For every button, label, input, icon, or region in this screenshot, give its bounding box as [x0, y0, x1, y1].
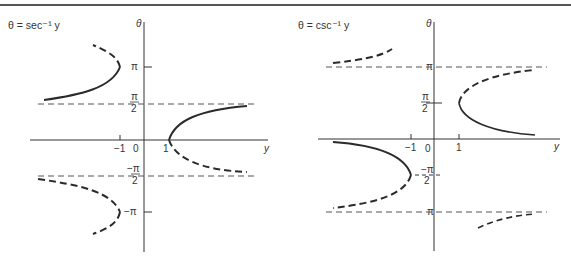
tick-label-pi: π [131, 61, 138, 72]
tick-label-neg-pi-half-num: −π [127, 163, 140, 174]
tick-label-pi-half-den: 2 [131, 103, 137, 114]
curve-dashed-lower-left [38, 179, 120, 212]
curve-dashed-lower-left [333, 175, 411, 208]
theta-axis-label: θ [136, 18, 142, 29]
tick-label-neg-pi-half-den: 2 [424, 175, 430, 186]
curve-solid-left [44, 67, 120, 100]
curve-solid-right [169, 106, 247, 140]
curve-dashed-upper-left [93, 45, 120, 67]
curve-dashed-bottom-right [478, 214, 535, 228]
curve-dashed-right [169, 140, 247, 172]
tick-label-pi-half-num: π [422, 91, 429, 102]
tick-label-0: 0 [425, 143, 431, 154]
sec-inverse-chart: θ = sec⁻¹ y θ y −1 0 1 π π 2 −π 2 −π [8, 18, 270, 252]
chart-title: θ = sec⁻¹ y [8, 19, 61, 31]
theta-axis-label: θ [426, 18, 432, 29]
tick-label-neg1: −1 [405, 142, 417, 153]
curve-solid-right [459, 103, 535, 135]
tick-label-pi-half-den: 2 [422, 103, 428, 114]
curve-dashed-upper-right [459, 70, 535, 103]
tick-label-neg-pi-half-num: −π [421, 164, 434, 175]
curve-solid-left [333, 142, 411, 175]
tick-label-0: 0 [133, 143, 139, 154]
csc-inverse-chart: θ = csc⁻¹ y θ y −1 0 1 π π 2 −π 2 π [298, 18, 560, 251]
tick-label-pi-half-num: π [131, 91, 138, 102]
y-axis-label: y [553, 141, 560, 152]
chart-title: θ = csc⁻¹ y [298, 19, 350, 31]
figure: θ = sec⁻¹ y θ y −1 0 1 π π 2 −π 2 −π [0, 0, 571, 265]
tick-label-neg-pi: −π [124, 206, 137, 217]
tick-label-1: 1 [163, 143, 169, 154]
tick-label-neg-pi-half-den: 2 [132, 175, 138, 186]
curve-dashed-bottom-left [93, 212, 120, 234]
tick-label-neg1: −1 [114, 143, 126, 154]
curve-dashed-top-left [333, 49, 392, 63]
tick-label-1: 1 [456, 142, 462, 153]
y-axis-label: y [263, 143, 270, 154]
